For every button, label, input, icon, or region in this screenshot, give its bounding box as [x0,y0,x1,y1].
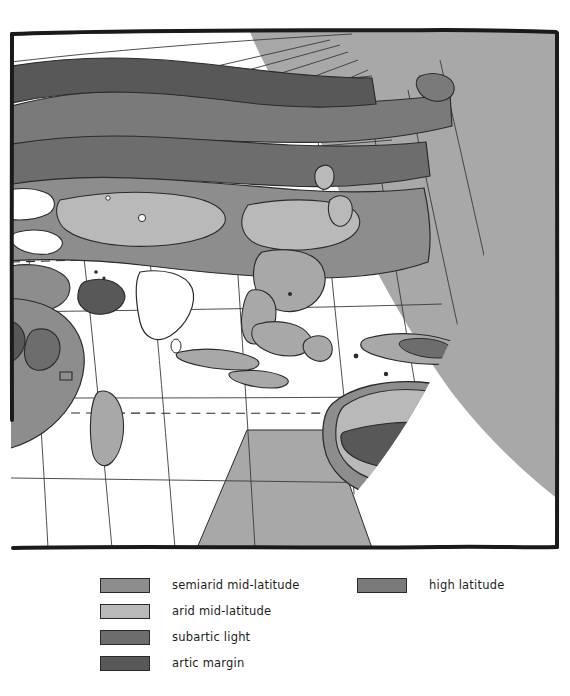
legend-item-subartic-light: subartic light [100,624,300,650]
island-dot [102,276,105,279]
korea-region [315,165,334,189]
sri-lanka [171,339,181,353]
island-dot [288,292,292,296]
legend-item-arid-mid-latitude: arid mid-latitude [100,598,300,624]
legend-column-right: high latitude [357,572,504,598]
island-dot [94,270,98,274]
europe-coast [0,189,54,220]
zone-dark-patch-horn-of-africa [78,279,125,314]
legend-label-arid-mid-latitude: arid mid-latitude [172,604,271,618]
legend-column-left: semiarid mid-latitude arid mid-latitude … [100,572,300,676]
legend-item-artic-margin: artic margin [100,650,300,676]
legend-swatch-semiarid-mid-latitude [100,578,150,593]
legend-label-subartic-light: subartic light [172,630,250,644]
legend-swatch-high-latitude [357,578,407,593]
legend-item-high-latitude: high latitude [357,572,504,598]
legend-item-semiarid-mid-latitude: semiarid mid-latitude [100,572,300,598]
inland-lake [138,214,145,221]
legend-label-high-latitude: high latitude [429,578,504,592]
legend-label-semiarid-mid-latitude: semiarid mid-latitude [172,578,300,592]
climate-map-figure: semiarid mid-latitude arid mid-latitude … [0,0,570,696]
island-dot [354,354,359,359]
island-dot [384,372,388,376]
map-legend: semiarid mid-latitude arid mid-latitude … [0,562,570,696]
legend-swatch-arid-mid-latitude [100,604,150,619]
legend-label-artic-margin: artic margin [172,656,244,670]
legend-swatch-subartic-light [100,630,150,645]
japan [328,196,352,227]
legend-swatch-artic-margin [100,656,150,671]
island-dot [106,196,110,200]
